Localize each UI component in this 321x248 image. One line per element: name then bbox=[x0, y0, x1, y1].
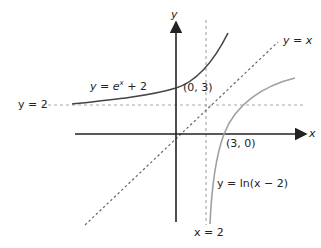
graph-diagram: y x y = ex + 2 y = x y = 2 x = 2 (0, 3) … bbox=[0, 0, 321, 248]
exp-intercept-label: (0, 3) bbox=[183, 81, 213, 94]
exp-curve-label: y = ex + 2 bbox=[90, 79, 147, 93]
vertical-asymptote-label: x = 2 bbox=[194, 226, 224, 239]
identity-line-label: y = x bbox=[283, 34, 312, 47]
horizontal-asymptote-label: y = 2 bbox=[18, 98, 48, 111]
ln-curve bbox=[210, 78, 295, 224]
ln-intercept-label: (3, 0) bbox=[226, 137, 256, 150]
y-axis-label: y bbox=[171, 8, 178, 21]
x-axis-label: x bbox=[309, 127, 316, 140]
ln-curve-label: y = ln(x − 2) bbox=[217, 177, 288, 190]
graph-canvas bbox=[0, 0, 321, 248]
